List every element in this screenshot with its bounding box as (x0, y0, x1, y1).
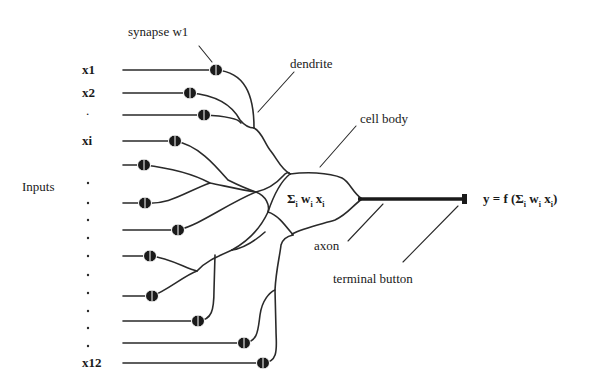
synapse-icon (172, 224, 185, 236)
synapse-icon (210, 64, 223, 76)
synapse-icon (198, 109, 211, 121)
synapse-icon (238, 337, 251, 349)
sigma-symbol: Σ (515, 191, 524, 206)
input-label-dot: . (86, 104, 89, 117)
input-label-x1: x1 (82, 63, 95, 76)
synapse-icon (257, 357, 270, 369)
ellipsis-dots (87, 182, 89, 347)
sigma-symbol: Σ (287, 191, 296, 206)
synapse-icon (144, 250, 157, 262)
input-label-x2: x2 (82, 86, 95, 99)
terminal-button-shape (462, 194, 467, 204)
synapse-label: synapse w1 (128, 25, 188, 38)
output-expression: y = f (Σi wi xi) (483, 192, 557, 209)
synapses (138, 64, 270, 369)
terminal-button-label: terminal button (333, 272, 413, 285)
synapse-icon (139, 197, 152, 209)
synapse-icon (169, 135, 182, 147)
synapse-icon (184, 87, 197, 99)
input-label-xi: xi (82, 134, 92, 147)
dendrite-label: dendrite (290, 57, 333, 70)
synapse-icon (146, 290, 159, 302)
cell-body-label: cell body (360, 112, 408, 125)
synapse-icon (138, 159, 151, 171)
inputs-label: Inputs (22, 180, 55, 193)
dendrite-branches (144, 70, 293, 363)
input-label-x12: x12 (82, 356, 102, 369)
sum-expression: Σi wi xi (287, 192, 325, 209)
axon-label: axon (314, 239, 339, 252)
synapse-icon (192, 315, 205, 327)
